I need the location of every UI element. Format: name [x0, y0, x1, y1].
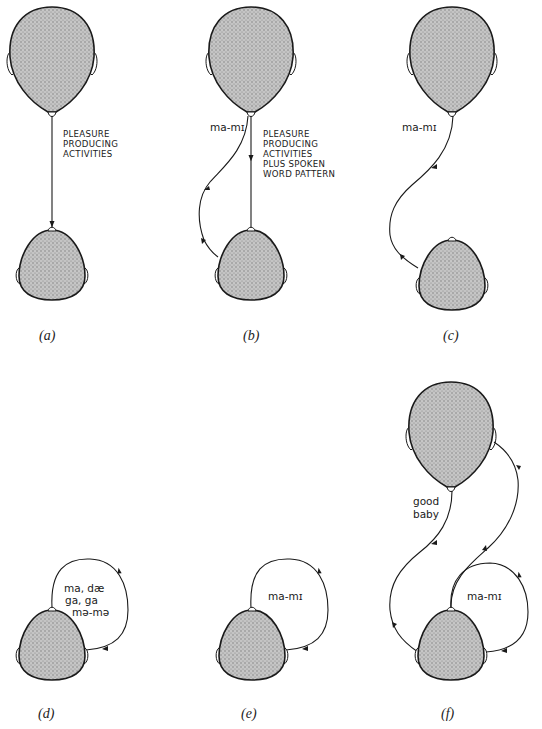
panel-a: PLEASURE PRODUCING ACTIVITIES (a) [7, 7, 121, 344]
panel-label-c: (c) [443, 328, 459, 344]
pleasure-text: PLEASURE PRODUCING ACTIVITIES [63, 129, 121, 159]
panel-label-b: (b) [243, 328, 260, 344]
baby-head-icon [16, 607, 88, 680]
panel-d: ma, dæ ga, ga mə-mə (d) [16, 559, 128, 722]
panel-f: good baby ma-mɪ (f) [390, 382, 528, 722]
phonetic-text: ma-mɪ [467, 590, 502, 602]
adult-head-icon [206, 7, 296, 117]
phonetic-text: ma-mɪ [210, 121, 245, 133]
baby-head-icon [415, 607, 487, 680]
panel-label-e: (e) [241, 706, 257, 722]
phonetic-text: ma-mɪ [268, 590, 303, 602]
panel-b: ma-mɪ PLEASURE PRODUCING ACTIVITIES PLUS… [199, 7, 335, 344]
panel-c: ma-mɪ (c) [390, 7, 497, 344]
baby-head-icon [215, 227, 287, 300]
adult-head-icon [407, 7, 497, 117]
babble-text: ma, dæ ga, ga mə-mə [64, 582, 109, 618]
panel-label-f: (f) [441, 706, 455, 722]
pleasure-spoken-text: PLEASURE PRODUCING ACTIVITIES PLUS SPOKE… [263, 129, 335, 179]
baby-head-icon [216, 607, 288, 680]
adult-head-icon [406, 382, 496, 492]
good-baby-text: good baby [413, 495, 443, 520]
panel-label-d: (d) [38, 706, 55, 722]
baby-head-icon [16, 227, 88, 300]
panel-e: ma-mɪ (e) [216, 559, 328, 722]
baby-head-icon [416, 237, 488, 310]
phonetic-text: ma-mɪ [402, 121, 437, 133]
panel-label-a: (a) [39, 328, 56, 344]
adult-head-icon [7, 7, 97, 117]
speech-learning-diagram: PLEASURE PRODUCING ACTIVITIES (a) ma-mɪ … [0, 0, 542, 729]
